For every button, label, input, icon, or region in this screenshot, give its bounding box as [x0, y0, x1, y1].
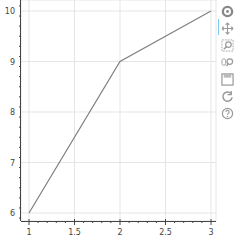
- wheel-zoom-icon[interactable]: [220, 55, 235, 70]
- svg-text:2: 2: [117, 228, 122, 237]
- active-tool-indicator: [218, 19, 219, 35]
- svg-text:6: 6: [10, 209, 15, 218]
- svg-text:1.5: 1.5: [68, 228, 81, 237]
- save-icon[interactable]: [220, 72, 235, 87]
- reset-icon[interactable]: [220, 89, 235, 104]
- svg-text:9: 9: [10, 58, 15, 67]
- svg-text:7: 7: [10, 159, 15, 168]
- grid-lines: [21, 0, 216, 221]
- help-icon[interactable]: [220, 106, 235, 121]
- svg-text:1: 1: [26, 228, 31, 237]
- svg-text:2.5: 2.5: [159, 228, 172, 237]
- tick-labels: 11.522.53678910: [5, 7, 214, 237]
- pan-tool-icon[interactable]: [220, 21, 235, 36]
- svg-text:8: 8: [10, 108, 15, 117]
- svg-text:3: 3: [208, 228, 213, 237]
- svg-text:10: 10: [5, 7, 15, 16]
- bokeh-logo-icon[interactable]: [220, 4, 235, 19]
- box-zoom-icon[interactable]: [220, 38, 235, 53]
- line-chart: 11.522.53678910: [0, 0, 237, 246]
- plot-toolbar: [218, 0, 237, 150]
